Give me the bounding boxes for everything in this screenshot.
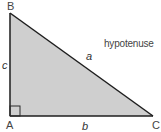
vertex-label-c: C (152, 120, 160, 131)
right-triangle-figure (0, 0, 161, 132)
side-label-a: a (86, 51, 92, 62)
vertex-label-b: B (7, 1, 14, 12)
side-label-b: b (82, 121, 88, 132)
vertex-label-a: A (6, 120, 13, 131)
side-label-c: c (2, 60, 8, 71)
hypotenuse-annotation: hypotenuse (104, 38, 154, 49)
